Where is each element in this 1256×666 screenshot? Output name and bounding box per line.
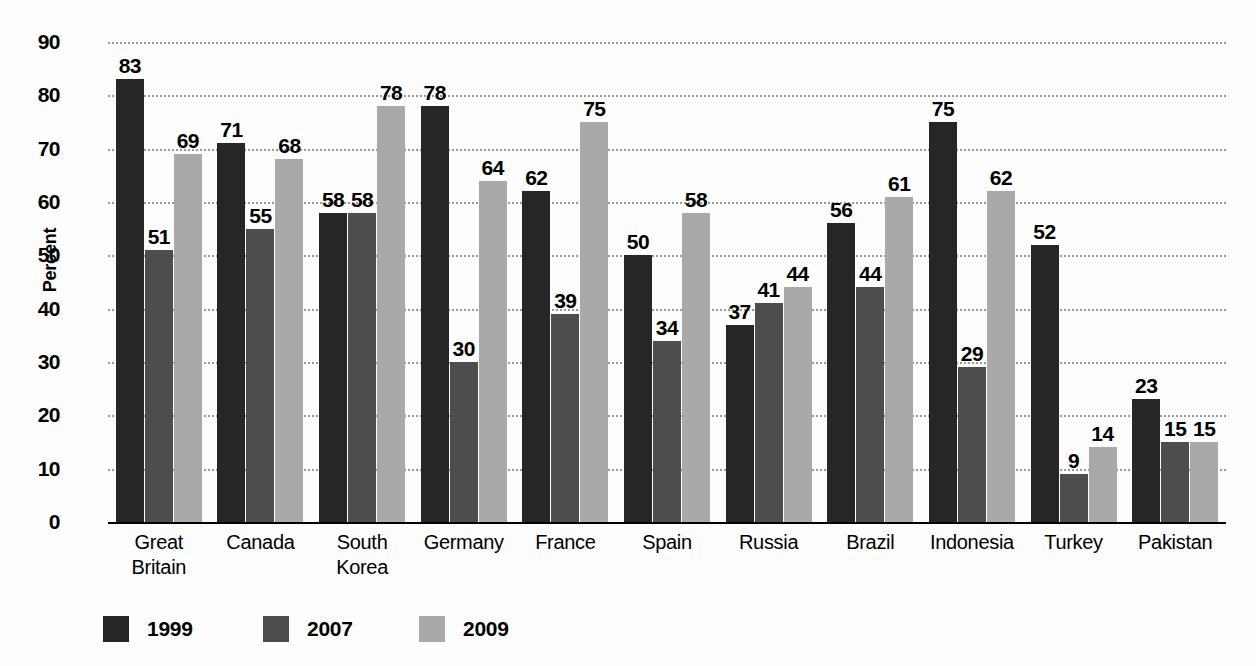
bar-value-label: 14 — [1091, 423, 1113, 447]
bar[interactable]: 41 — [755, 303, 783, 522]
bar-value-label: 64 — [482, 157, 504, 181]
legend-item-2009[interactable]: 2009 — [419, 612, 509, 646]
bar-group: 715568 — [217, 42, 303, 522]
bar-value-label: 50 — [627, 231, 649, 255]
plot-area: 9080706050403020100 83516971556858587878… — [108, 42, 1226, 522]
bar[interactable]: 62 — [987, 191, 1015, 522]
bar-group: 503458 — [624, 42, 710, 522]
bar[interactable]: 61 — [885, 197, 913, 522]
axis-baseline — [108, 522, 1226, 524]
bar-value-label: 34 — [656, 317, 678, 341]
bar-group: 52914 — [1031, 42, 1117, 522]
bar[interactable]: 83 — [116, 79, 144, 522]
bar[interactable]: 62 — [522, 191, 550, 522]
y-axis-tick-label: 30 — [0, 351, 60, 372]
bar[interactable]: 58 — [682, 213, 710, 522]
bar[interactable]: 29 — [958, 367, 986, 522]
bar-group: 783064 — [421, 42, 507, 522]
bar-group: 374144 — [726, 42, 812, 522]
bar[interactable]: 58 — [348, 213, 376, 522]
bar-value-label: 83 — [119, 55, 141, 79]
bar[interactable]: 34 — [653, 341, 681, 522]
bar[interactable]: 14 — [1089, 447, 1117, 522]
bar-value-label: 71 — [220, 119, 242, 143]
bar-value-label: 23 — [1135, 375, 1157, 399]
bar[interactable]: 71 — [217, 143, 245, 522]
bar-value-label: 62 — [525, 167, 547, 191]
bar-value-label: 29 — [961, 343, 983, 367]
x-axis-category-label: Pakistan — [1115, 530, 1235, 555]
y-axis-tick-label: 0 — [0, 511, 60, 532]
bar[interactable]: 75 — [580, 122, 608, 522]
bar[interactable]: 39 — [551, 314, 579, 522]
bar-value-label: 15 — [1193, 418, 1215, 442]
bar[interactable]: 50 — [624, 255, 652, 522]
category-label-line: Korea — [302, 555, 422, 580]
legend-label: 2007 — [307, 617, 353, 641]
bar[interactable]: 56 — [827, 223, 855, 522]
bar-value-label: 78 — [424, 82, 446, 106]
bar-group: 835169 — [116, 42, 202, 522]
bar-group: 623975 — [522, 42, 608, 522]
category-label-line: Pakistan — [1115, 530, 1235, 555]
bar-group: 231515 — [1132, 42, 1218, 522]
bar[interactable]: 44 — [856, 287, 884, 522]
bar-value-label: 44 — [786, 263, 808, 287]
y-axis-tick-label: 10 — [0, 458, 60, 479]
bar-value-label: 44 — [859, 263, 881, 287]
bar-group: 752962 — [929, 42, 1015, 522]
bar-value-label: 41 — [757, 279, 779, 303]
bar-value-label: 56 — [830, 199, 852, 223]
bar-value-label: 68 — [278, 135, 300, 159]
y-axis-tick-label: 60 — [0, 191, 60, 212]
bar-group: 564461 — [827, 42, 913, 522]
bar-value-label: 15 — [1164, 418, 1186, 442]
legend-label: 1999 — [147, 617, 193, 641]
bar[interactable]: 15 — [1161, 442, 1189, 522]
bar[interactable]: 37 — [726, 325, 754, 522]
y-axis-tick-label: 40 — [0, 298, 60, 319]
bar[interactable]: 9 — [1060, 474, 1088, 522]
bar[interactable]: 15 — [1190, 442, 1218, 522]
grouped-bar-chart: Percent 9080706050403020100 835169715568… — [0, 0, 1256, 666]
bar[interactable]: 44 — [784, 287, 812, 522]
bar-value-label: 39 — [554, 290, 576, 314]
bar-value-label: 78 — [380, 82, 402, 106]
bar-value-label: 58 — [351, 189, 373, 213]
bar-value-label: 30 — [453, 338, 475, 362]
category-label-line: Britain — [99, 555, 219, 580]
bar[interactable]: 78 — [421, 106, 449, 522]
bar-value-label: 52 — [1033, 221, 1055, 245]
bar-value-label: 37 — [728, 301, 750, 325]
bar-value-label: 9 — [1068, 450, 1079, 474]
legend-swatch-icon — [103, 616, 129, 642]
bar[interactable]: 64 — [479, 181, 507, 522]
legend-item-2007[interactable]: 2007 — [263, 612, 353, 646]
bar-value-label: 61 — [888, 173, 910, 197]
bar-value-label: 75 — [583, 98, 605, 122]
y-axis-tick-label: 80 — [0, 84, 60, 105]
y-axis-tick-label: 90 — [0, 31, 60, 52]
bar[interactable]: 75 — [929, 122, 957, 522]
bar-group: 585878 — [319, 42, 405, 522]
legend-swatch-icon — [419, 616, 445, 642]
legend-swatch-icon — [263, 616, 289, 642]
bar[interactable]: 68 — [275, 159, 303, 522]
bar-value-label: 58 — [322, 189, 344, 213]
bar[interactable]: 78 — [377, 106, 405, 522]
bar-value-label: 62 — [990, 167, 1012, 191]
legend-item-1999[interactable]: 1999 — [103, 612, 193, 646]
bar-value-label: 51 — [148, 226, 170, 250]
bar-value-label: 58 — [685, 189, 707, 213]
y-axis-tick-label: 70 — [0, 138, 60, 159]
bar[interactable]: 51 — [145, 250, 173, 522]
bar[interactable]: 23 — [1132, 399, 1160, 522]
bar[interactable]: 55 — [246, 229, 274, 522]
y-axis-tick-label: 50 — [0, 244, 60, 265]
bar[interactable]: 69 — [174, 154, 202, 522]
bar[interactable]: 30 — [450, 362, 478, 522]
bar[interactable]: 52 — [1031, 245, 1059, 522]
bar[interactable]: 58 — [319, 213, 347, 522]
bar-value-label: 69 — [177, 130, 199, 154]
x-axis-category-labels: GreatBritainCanadaSouthKoreaGermanyFranc… — [108, 530, 1226, 600]
